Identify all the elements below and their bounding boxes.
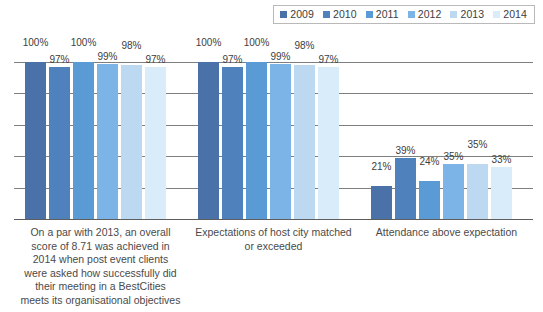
bar-2011[interactable]: 24% [419, 62, 440, 219]
bar-2012[interactable]: 35% [443, 62, 464, 219]
legend-item-label: 2011 [376, 9, 399, 20]
legend-swatch-icon [450, 11, 457, 18]
bar-2010[interactable]: 97% [49, 62, 70, 219]
legend-item-label: 2014 [503, 9, 527, 20]
legend-item-2010[interactable]: 2010 [323, 9, 357, 20]
bar-2011[interactable]: 100% [246, 62, 267, 219]
bar-value-label: 100% [196, 38, 222, 48]
bar-value-label: 39% [395, 146, 415, 156]
bar-rect [467, 164, 488, 219]
bar-rect [395, 158, 416, 219]
legend-item-label: 2009 [290, 9, 314, 20]
bar-rect [73, 62, 94, 219]
bar-value-label: 100% [71, 38, 97, 48]
chart-legend: 200920102011201220132014 [273, 5, 535, 24]
bar-group: 100%97%100%99%98%97% [14, 62, 187, 219]
bar-rect [419, 181, 440, 219]
bar-group: 21%39%24%35%35%33% [360, 62, 533, 219]
legend-item-label: 2012 [418, 9, 442, 20]
bar-2014[interactable]: 97% [145, 62, 166, 219]
bar-rect [97, 64, 118, 219]
legend-swatch-icon [366, 11, 373, 18]
legend-swatch-icon [323, 11, 330, 18]
bar-value-label: 33% [491, 155, 511, 165]
legend-swatch-icon [493, 11, 500, 18]
bar-value-label: 21% [371, 162, 391, 172]
bar-2012[interactable]: 99% [97, 62, 118, 219]
bar-2012[interactable]: 99% [270, 62, 291, 219]
category-label: On a par with 2013, an overall score of … [14, 226, 187, 307]
bar-groups: 100%97%100%99%98%97%100%97%100%99%98%97%… [14, 62, 533, 219]
bar-rect [318, 67, 339, 219]
category-labels: On a par with 2013, an overall score of … [14, 226, 533, 307]
bar-chart: 200920102011201220132014 100%97%100%99%9… [0, 0, 543, 312]
legend-item-label: 2013 [460, 9, 484, 20]
x-axis-line [14, 219, 533, 220]
bar-group: 100%97%100%99%98%97% [187, 62, 360, 219]
bar-value-label: 99% [270, 52, 290, 62]
bar-rect [121, 65, 142, 219]
bar-2009[interactable]: 21% [371, 62, 392, 219]
bar-2009[interactable]: 100% [25, 62, 46, 219]
legend-item-2012[interactable]: 2012 [408, 9, 442, 20]
category-label: Attendance above expectation [360, 226, 533, 307]
bar-value-label: 97% [318, 55, 338, 65]
legend-swatch-icon [280, 11, 287, 18]
bar-2013[interactable]: 98% [121, 62, 142, 219]
bar-value-label: 24% [419, 157, 439, 167]
bar-value-label: 35% [467, 140, 487, 150]
bar-value-label: 99% [97, 52, 117, 62]
bar-2010[interactable]: 39% [395, 62, 416, 219]
plot-area: 100%97%100%99%98%97%100%97%100%99%98%97%… [14, 62, 533, 219]
bar-value-label: 97% [222, 55, 242, 65]
legend-item-2009[interactable]: 2009 [280, 9, 314, 20]
bar-rect [491, 167, 512, 219]
bar-2010[interactable]: 97% [222, 62, 243, 219]
bar-value-label: 97% [49, 55, 69, 65]
legend-item-label: 2010 [333, 9, 357, 20]
bar-rect [145, 67, 166, 219]
bar-2014[interactable]: 97% [318, 62, 339, 219]
bar-rect [443, 164, 464, 219]
bar-2011[interactable]: 100% [73, 62, 94, 219]
bar-rect [25, 62, 46, 219]
bar-rect [49, 67, 70, 219]
bar-2013[interactable]: 35% [467, 62, 488, 219]
bar-rect [371, 186, 392, 219]
legend-item-2014[interactable]: 2014 [493, 9, 527, 20]
legend-item-2013[interactable]: 2013 [450, 9, 484, 20]
bar-value-label: 98% [121, 41, 141, 51]
bar-2009[interactable]: 100% [198, 62, 219, 219]
bar-value-label: 35% [443, 152, 463, 162]
bar-value-label: 98% [294, 41, 314, 51]
bar-rect [222, 67, 243, 219]
bar-rect [270, 64, 291, 219]
legend-swatch-icon [408, 11, 415, 18]
bar-value-label: 100% [23, 38, 49, 48]
bar-rect [246, 62, 267, 219]
category-label: Expectations of host city matched or exc… [187, 226, 360, 307]
bar-rect [198, 62, 219, 219]
bar-2014[interactable]: 33% [491, 62, 512, 219]
bar-rect [294, 65, 315, 219]
legend-item-2011[interactable]: 2011 [366, 9, 399, 20]
bar-value-label: 97% [145, 55, 165, 65]
bar-value-label: 100% [244, 38, 270, 48]
bar-2013[interactable]: 98% [294, 62, 315, 219]
